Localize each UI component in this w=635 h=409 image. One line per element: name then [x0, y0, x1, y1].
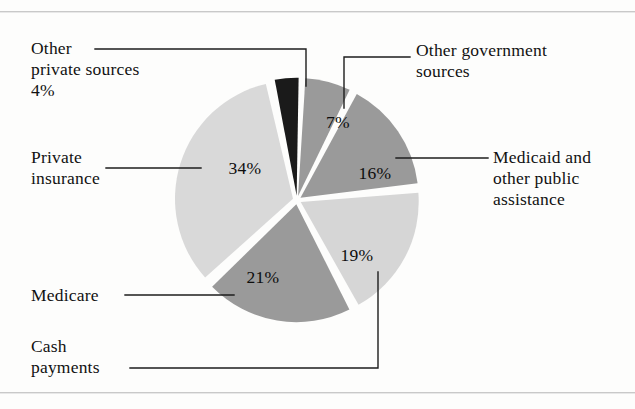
percent-label-private-insurance: 34%: [229, 158, 262, 178]
label-medicare: Medicare: [31, 285, 99, 306]
label-medicaid: Medicaid and other public assistance: [493, 147, 591, 210]
label-private-insurance: Private insurance: [31, 147, 100, 189]
label-other-private-sources: Other private sources 4%: [31, 38, 139, 101]
label-cash-payments: Cash payments: [31, 336, 100, 378]
percent-label-other-government-sources: 7%: [326, 112, 350, 132]
pie-slices: [175, 78, 419, 322]
percent-label-cash-payments: 19%: [341, 245, 374, 265]
percent-label-medicaid: 16%: [359, 163, 392, 183]
percent-label-medicare: 21%: [247, 267, 280, 287]
figure-canvas: 34% 7% 16% 19% 21% Other private sources…: [0, 0, 635, 409]
label-other-government-sources: Other government sources: [416, 40, 547, 82]
